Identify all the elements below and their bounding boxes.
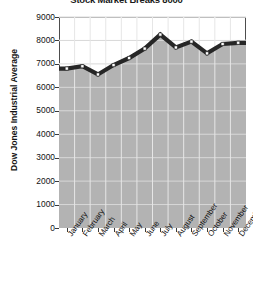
x-axis-tick-mark [82, 228, 83, 232]
x-axis-tick-mark [207, 228, 208, 232]
y-axis-tick-label: 4000 [9, 129, 55, 139]
y-axis-tick-label: 7000 [9, 58, 55, 68]
data-point-marker[interactable] [65, 67, 68, 70]
y-axis-tick-label: 0 [9, 223, 55, 233]
data-point-marker[interactable] [112, 63, 115, 66]
x-axis-tick-mark [191, 228, 192, 232]
x-axis-tick-mark [67, 228, 68, 232]
data-point-marker[interactable] [81, 65, 84, 68]
data-point-marker[interactable] [205, 52, 208, 55]
y-axis-tick-label: 1000 [9, 199, 55, 209]
data-point-marker[interactable] [128, 56, 131, 59]
y-axis-tick-mark [55, 228, 59, 229]
x-axis-tick-mark [129, 228, 130, 232]
data-point-marker[interactable] [174, 46, 177, 49]
x-axis-tick-mark [114, 228, 115, 232]
x-axis-tick-mark [176, 228, 177, 232]
data-series-area [59, 17, 246, 228]
y-axis-tick-label: 8000 [9, 35, 55, 45]
x-axis-tick-mark [160, 228, 161, 232]
y-axis-tick-label: 5000 [9, 105, 55, 115]
data-point-marker[interactable] [159, 33, 162, 36]
y-axis-tick-label: 2000 [9, 176, 55, 186]
chart-container: Stock Market Breaks 8000 Dow Jones Indus… [0, 0, 253, 286]
y-axis-tick-labels: 0100020003000400050006000700080009000 [6, 0, 55, 286]
y-axis-tick-label: 6000 [9, 82, 55, 92]
y-axis-tick-label: 9000 [9, 12, 55, 22]
x-axis-tick-mark [223, 228, 224, 232]
x-axis-tick-mark [98, 228, 99, 232]
data-point-marker[interactable] [237, 41, 240, 44]
data-point-marker[interactable] [190, 40, 193, 43]
x-axis-tick-mark [238, 228, 239, 232]
x-axis-tick-mark [145, 228, 146, 232]
data-point-marker[interactable] [143, 47, 146, 50]
data-point-marker[interactable] [221, 42, 224, 45]
y-axis-tick-label: 3000 [9, 152, 55, 162]
data-point-marker[interactable] [96, 73, 99, 76]
